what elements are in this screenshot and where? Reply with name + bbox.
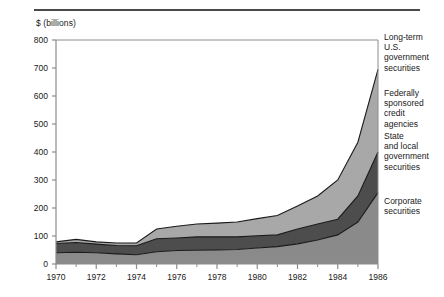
legend-item-label: and local bbox=[384, 141, 444, 151]
legend-item-label: Federally bbox=[384, 88, 444, 98]
legend-item-label: Long-term bbox=[384, 32, 444, 42]
legend-item-label: securities bbox=[384, 63, 444, 73]
x-tick-label: 1986 bbox=[361, 272, 395, 282]
x-tick-label: 1974 bbox=[120, 272, 154, 282]
area-chart-svg bbox=[0, 0, 444, 297]
legend-item-label: Corporate bbox=[384, 196, 444, 206]
legend-item-label: credit bbox=[384, 108, 444, 118]
x-tick-label: 1980 bbox=[240, 272, 274, 282]
legend-item: Federallysponsoredcreditagencies bbox=[384, 88, 444, 129]
legend-item-label: securities bbox=[384, 162, 444, 172]
legend-item-label: State bbox=[384, 131, 444, 141]
x-tick-label: 1982 bbox=[281, 272, 315, 282]
plot-area bbox=[0, 0, 444, 297]
y-tick-label: 500 bbox=[22, 119, 48, 129]
legend-item: Corporatesecurities bbox=[384, 196, 444, 216]
chart-figure: $ (billions) 0100200300400500600700800 1… bbox=[0, 0, 444, 297]
legend-item-label: government bbox=[384, 52, 444, 62]
y-tick-label: 600 bbox=[22, 91, 48, 101]
y-tick-label: 200 bbox=[22, 203, 48, 213]
x-tick-label: 1970 bbox=[39, 272, 73, 282]
legend-item-label: securities bbox=[384, 206, 444, 216]
legend-item-label: agencies bbox=[384, 119, 444, 129]
y-tick-label: 100 bbox=[22, 231, 48, 241]
stacked-area-bands bbox=[56, 69, 378, 264]
legend-item-label: U.S. bbox=[384, 42, 444, 52]
x-tick-label: 1976 bbox=[160, 272, 194, 282]
x-tick-label: 1972 bbox=[79, 272, 113, 282]
y-tick-label: 700 bbox=[22, 63, 48, 73]
y-tick-label: 0 bbox=[22, 259, 48, 269]
x-tick-label: 1984 bbox=[321, 272, 355, 282]
legend-item-label: government bbox=[384, 151, 444, 161]
legend-item: Stateand localgovernmentsecurities bbox=[384, 131, 444, 172]
y-tick-label: 300 bbox=[22, 175, 48, 185]
legend-item-label: sponsored bbox=[384, 98, 444, 108]
y-tick-label: 800 bbox=[22, 35, 48, 45]
x-tick-label: 1978 bbox=[200, 272, 234, 282]
legend-item: Long-termU.S.governmentsecurities bbox=[384, 32, 444, 73]
y-tick-label: 400 bbox=[22, 147, 48, 157]
